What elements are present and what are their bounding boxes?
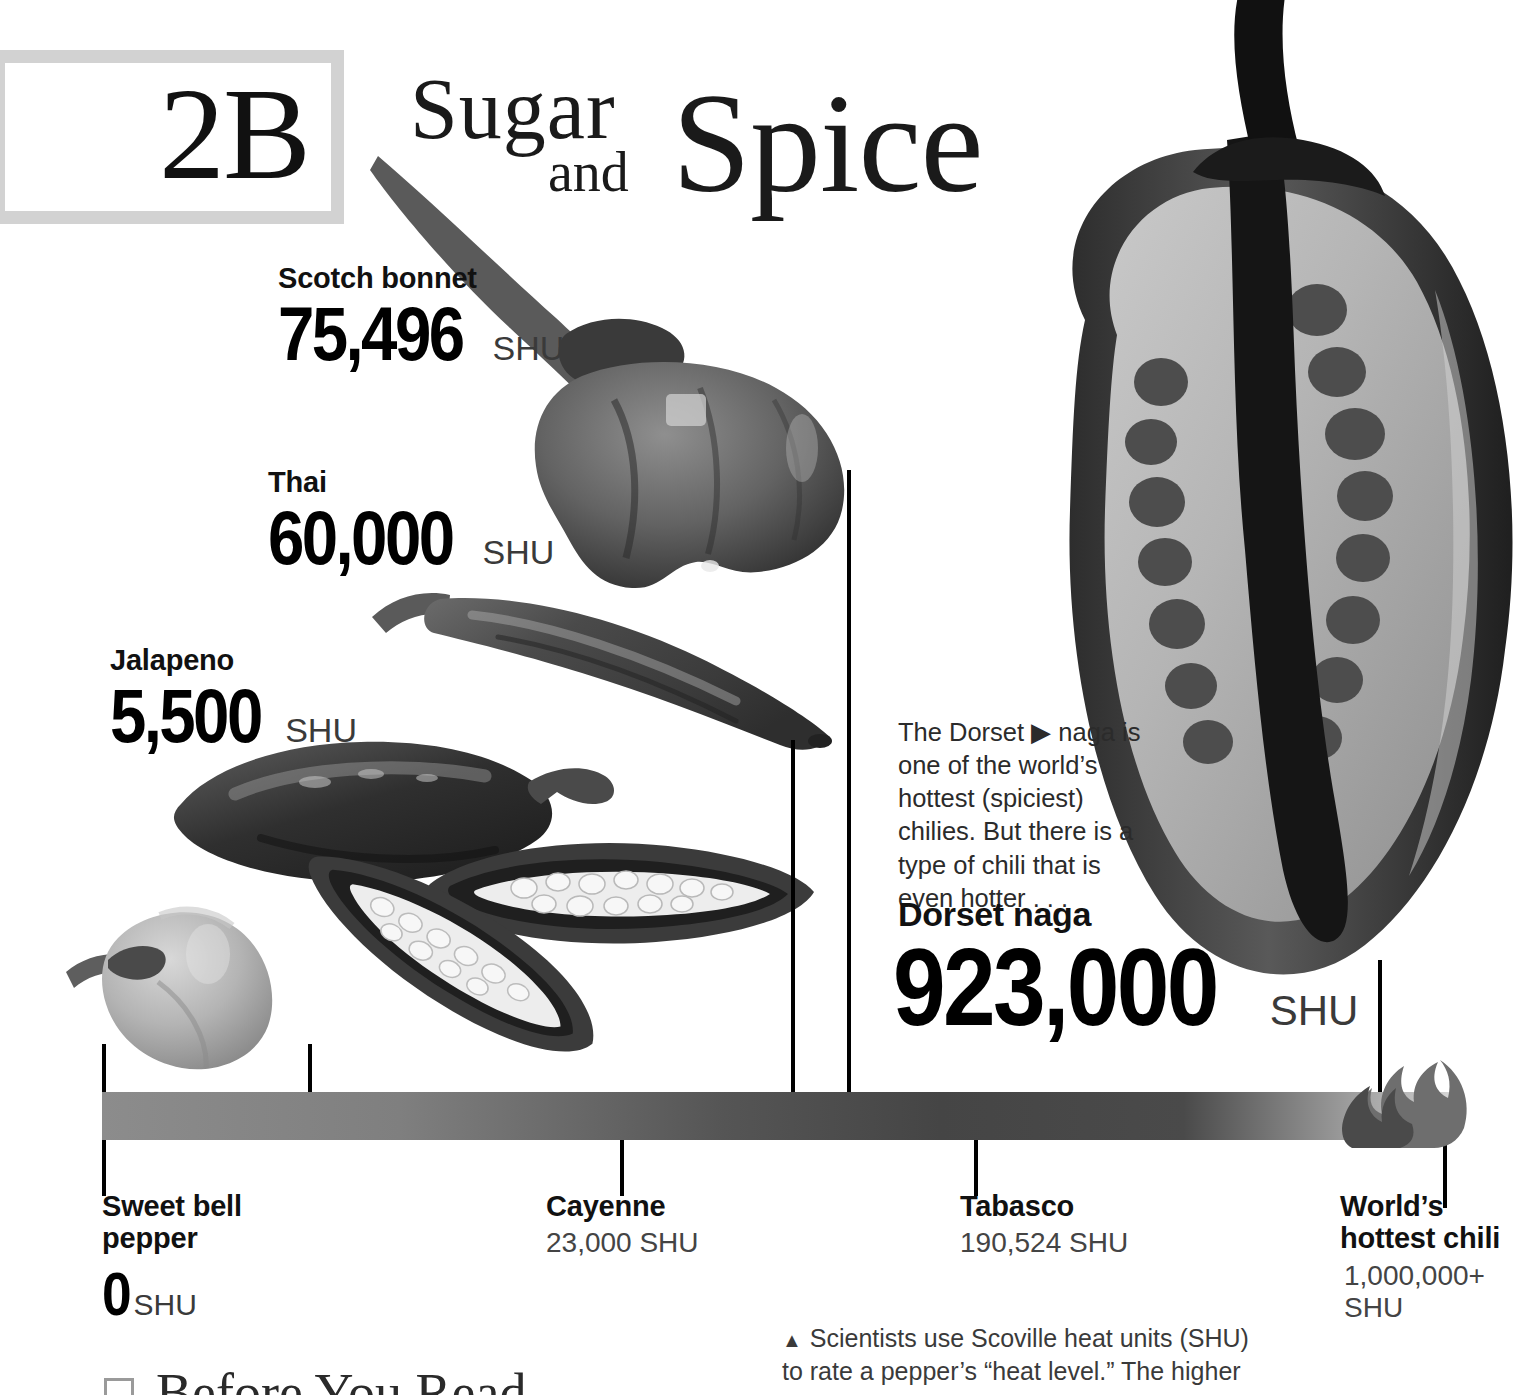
dorset-naga-value-group: 923,000SHU bbox=[893, 936, 1358, 1037]
axis-label-sweet-bell-pepper-name: Sweet bell pepper bbox=[102, 1190, 302, 1255]
axis-label-worlds-hottest-chili-value: 1,000,000+ SHU bbox=[1344, 1260, 1520, 1324]
before-you-read-heading: Before You Read bbox=[104, 1362, 526, 1395]
axis-label-sweet-bell-pepper-value: 0 bbox=[102, 1265, 129, 1322]
callout-jalapeno-unit: SHU bbox=[285, 711, 357, 750]
axis-label-cayenne-name: Cayenne bbox=[546, 1190, 776, 1222]
footnote-text: Scientists use Scoville heat units (SHU)… bbox=[782, 1324, 1249, 1395]
title-word-spice: Spice bbox=[672, 72, 982, 214]
footnote: ▲Scientists use Scoville heat units (SHU… bbox=[782, 1322, 1262, 1395]
checkbox-icon bbox=[104, 1378, 134, 1395]
sweet-bell-pepper-image bbox=[60, 898, 290, 1078]
title-word-and: and bbox=[548, 144, 629, 200]
axis-label-worlds-hottest-chili-name: World’s hottest chili bbox=[1340, 1190, 1520, 1255]
axis-label-tabasco-name: Tabasco bbox=[960, 1190, 1200, 1222]
flame-icon bbox=[1342, 1036, 1472, 1148]
axis-label-tabasco-value: 190,524 SHU bbox=[960, 1227, 1200, 1259]
dorset-naga-note: The Dorset ▶ naga is one of the world’s … bbox=[898, 716, 1148, 915]
callout-thai-unit: SHU bbox=[482, 533, 554, 572]
callout-thai-value: 60,000 bbox=[268, 503, 452, 573]
dorset-naga-value: 923,000 bbox=[893, 936, 1217, 1037]
axis-label-sweet-bell-pepper-unit: SHU bbox=[133, 1288, 196, 1322]
dorset-naga-unit: SHU bbox=[1270, 987, 1359, 1035]
before-you-read-label: Before You Read bbox=[156, 1362, 526, 1395]
callout-scotch-bonnet: Scotch bonnet 75,496SHU bbox=[278, 262, 564, 369]
axis-label-sweet-bell-pepper: Sweet bell pepper 0SHU bbox=[102, 1190, 302, 1322]
axis-label-cayenne: Cayenne 23,000 SHU bbox=[546, 1190, 776, 1260]
title-word-sugar: Sugar bbox=[410, 66, 616, 152]
axis-label-cayenne-value: 23,000 SHU bbox=[546, 1227, 776, 1259]
callout-jalapeno: Jalapeno 5,500SHU bbox=[110, 644, 357, 751]
callout-scotch-bonnet-value: 75,496 bbox=[278, 299, 462, 369]
chapter-badge: 2B bbox=[0, 50, 344, 224]
triangle-up-icon: ▲ bbox=[782, 1329, 802, 1351]
callout-scotch-bonnet-unit: SHU bbox=[492, 329, 564, 368]
chapter-number: 2B bbox=[159, 68, 309, 200]
callout-jalapeno-value: 5,500 bbox=[110, 681, 261, 751]
heat-scale-bar bbox=[102, 1092, 1454, 1140]
tick-scotch-bonnet bbox=[847, 470, 851, 1140]
tick-thai bbox=[791, 740, 795, 1140]
callout-thai: Thai 60,000SHU bbox=[268, 466, 554, 573]
infographic-page: 2B Sugar and Spice Scotch bonnet 75,496S… bbox=[0, 0, 1535, 1395]
page-title: Sugar and Spice bbox=[400, 58, 1100, 238]
axis-label-worlds-hottest-chili: World’s hottest chili 1,000,000+ SHU bbox=[1340, 1190, 1520, 1324]
axis-label-tabasco: Tabasco 190,524 SHU bbox=[960, 1190, 1200, 1260]
